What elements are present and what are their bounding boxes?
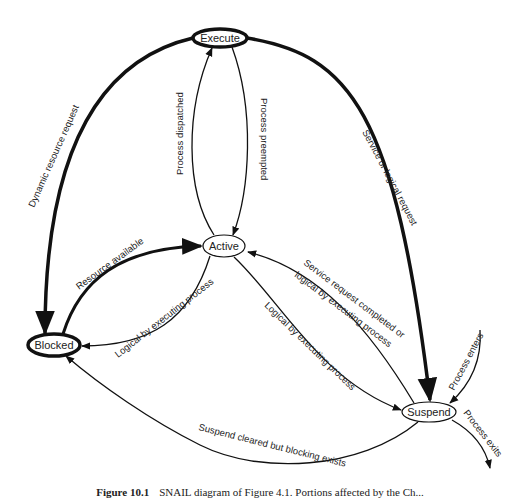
- edge-process-preempted: [232, 47, 248, 235]
- node-active-label: Active: [209, 240, 239, 252]
- snail-state-diagram: Dynamic resource request Process dispatc…: [0, 0, 520, 499]
- node-execute-label: Execute: [200, 32, 240, 44]
- edge-dynamic-resource-request: [45, 38, 193, 333]
- node-execute: Execute: [193, 29, 247, 47]
- label-service-or-logical-request: Service or logical request: [360, 128, 420, 228]
- node-suspend: Suspend: [402, 402, 456, 422]
- label-process-preempted: Process preempted: [259, 98, 270, 180]
- label-service-request-completed-line1: Service request completed or: [302, 257, 407, 340]
- edge-service-or-logical-request: [247, 38, 430, 400]
- node-active: Active: [203, 235, 245, 257]
- label-logical-by-executing-process-1: Logical by executing process: [112, 276, 215, 360]
- node-blocked-label: Blocked: [34, 339, 73, 351]
- edge-suspend-cleared: [66, 356, 418, 464]
- edge-process-dispatched: [192, 48, 214, 235]
- label-process-enters: Process enters: [446, 331, 486, 392]
- label-resource-available: Resource available: [74, 235, 146, 291]
- label-dynamic-resource-request: Dynamic resource request: [26, 103, 81, 209]
- figure-caption: Figure 10.1SNAIL diagram of Figure 4.1. …: [0, 486, 520, 499]
- node-suspend-label: Suspend: [407, 406, 450, 418]
- caption-text: SNAIL diagram of Figure 4.1. Portions af…: [159, 486, 424, 498]
- label-suspend-cleared: Suspend cleared but blocking exists: [198, 421, 348, 468]
- edge-resource-available: [63, 246, 201, 334]
- label-process-dispatched: Process dispatched: [174, 92, 185, 175]
- figure-number: Figure 10.1: [96, 486, 149, 498]
- node-blocked: Blocked: [28, 334, 80, 356]
- label-process-exits: Process exits: [461, 407, 505, 458]
